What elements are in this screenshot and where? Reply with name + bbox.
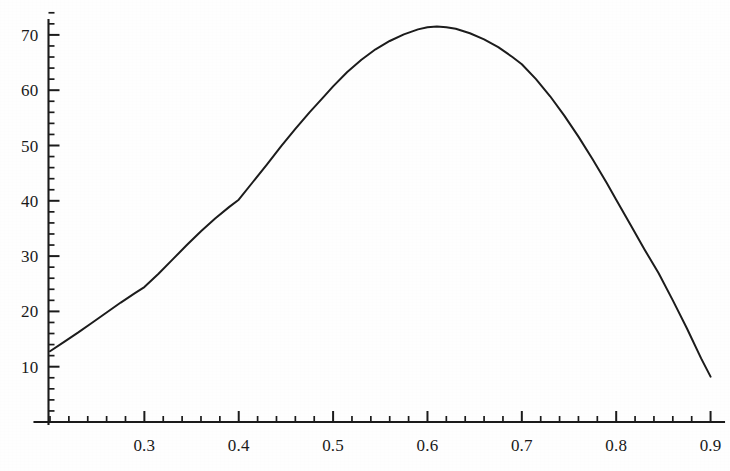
y-tick-label: 40 [21, 192, 38, 211]
x-tick-label: 0.7 [511, 436, 533, 455]
line-chart-plot: 10203040506070 0.30.40.50.60.70.80.9 [0, 0, 730, 471]
x-tick-label: 0.9 [700, 436, 722, 455]
x-tick-label: 0.4 [228, 436, 250, 455]
y-tick-label: 20 [21, 302, 38, 321]
y-tick-label: 50 [21, 137, 38, 156]
x-tick-label: 0.8 [605, 436, 627, 455]
x-tick-label: 0.6 [417, 436, 439, 455]
curve-path [50, 27, 711, 377]
chart-container: 10203040506070 0.30.40.50.60.70.80.9 [0, 0, 730, 471]
data-series-curve [50, 27, 711, 377]
y-tick-label: 10 [21, 358, 38, 377]
y-tick-label: 30 [21, 247, 38, 266]
x-tick-label: 0.3 [133, 436, 155, 455]
x-axis: 0.30.40.50.60.70.80.9 [35, 411, 725, 455]
y-tick-label: 60 [21, 81, 38, 100]
x-tick-label: 0.5 [322, 436, 344, 455]
y-axis: 10203040506070 [21, 13, 59, 424]
y-tick-label: 70 [21, 26, 38, 45]
